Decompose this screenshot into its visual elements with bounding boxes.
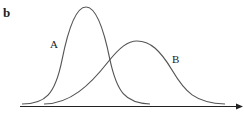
curve-a bbox=[22, 7, 150, 104]
curve-b-label: B bbox=[172, 53, 179, 65]
axis-arrow-icon bbox=[236, 104, 243, 110]
curve-a-label: A bbox=[50, 38, 58, 50]
curve-b bbox=[44, 41, 225, 104]
distribution-diagram bbox=[0, 0, 244, 114]
